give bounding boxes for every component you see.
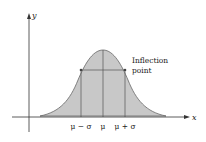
- inflection-point-right: [124, 69, 127, 72]
- inflection-label-line2: point: [132, 66, 152, 75]
- tick-label-mu-minus-sigma: μ − σ: [70, 122, 91, 131]
- tick-label-mu: μ: [101, 122, 106, 131]
- tick-label-mu-plus-sigma: μ + σ: [114, 122, 135, 131]
- x-axis-arrow-icon: [184, 115, 190, 119]
- normal-curve-diagram: x y μ − σ μ μ + σ Inflection point: [0, 0, 206, 142]
- y-axis-arrow-icon: [27, 13, 31, 19]
- inflection-label-line1: Inflection: [132, 56, 168, 65]
- inflection-point-left: [80, 69, 83, 72]
- y-axis-label: y: [31, 11, 37, 20]
- x-axis-label: x: [192, 113, 197, 122]
